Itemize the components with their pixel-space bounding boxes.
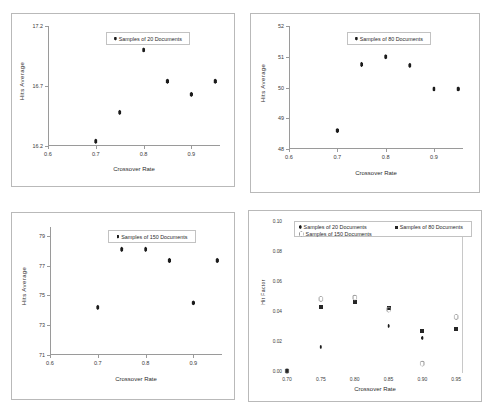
y-tick-label: 16.7 — [33, 83, 44, 89]
x-tick-label: 0.7 — [92, 151, 100, 157]
legend-item-3: Samples of 150 Documents — [299, 231, 372, 237]
open-diamond-marker-icon — [299, 231, 304, 237]
data-point — [384, 54, 387, 59]
data-point — [320, 345, 323, 349]
data-point — [318, 296, 323, 302]
x-tick-label: 0.70 — [282, 376, 292, 382]
y-tick-label: 77 — [39, 263, 45, 269]
x-tick-label: 0.6 — [46, 360, 54, 366]
plot-area-3: 79777573710.60.70.80.9 — [50, 227, 222, 355]
x-tick-label: 0.80 — [350, 376, 360, 382]
y-tick-label: 75 — [39, 292, 45, 298]
plot-area-4: 0.100.080.060.040.020.000.700.750.800.85… — [287, 221, 463, 371]
x-tick — [50, 355, 51, 358]
data-point — [142, 47, 145, 52]
x-axis-title-3: Crossover Rate — [115, 376, 157, 382]
x-tick-label: 0.6 — [44, 151, 52, 157]
diamond-marker-icon — [299, 225, 302, 229]
data-point — [420, 360, 425, 366]
y-tick — [286, 118, 289, 119]
y-tick — [286, 26, 289, 27]
x-tick — [48, 146, 49, 149]
chart-panel-1: 17.216.716.20.60.70.80.9 Samples of 20 D… — [11, 13, 235, 187]
x-tick-label: 0.7 — [333, 154, 341, 160]
y-tick-label: 0.06 — [273, 279, 282, 284]
x-tick — [191, 146, 192, 149]
x-tick-label: 0.9 — [187, 151, 195, 157]
data-point — [454, 327, 458, 331]
y-tick — [47, 325, 50, 326]
y-tick — [47, 266, 50, 267]
chart-panel-3: 79777573710.60.70.80.9 Samples of 150 Do… — [11, 212, 235, 400]
legend-label: Samples of 20 Documents — [119, 36, 182, 42]
chart-panel-1-cell: 17.216.716.20.60.70.80.9 Samples of 20 D… — [0, 0, 244, 200]
y-tick-label: 73 — [39, 322, 45, 328]
y-axis-line-1 — [48, 26, 49, 146]
data-point — [94, 138, 97, 143]
x-tick — [96, 146, 97, 149]
x-tick-label: 0.90 — [418, 376, 428, 382]
x-tick-label: 0.7 — [94, 360, 102, 366]
x-axis-line-1 — [48, 145, 220, 146]
x-tick — [386, 149, 387, 152]
data-point — [456, 86, 459, 91]
data-point — [190, 92, 193, 97]
x-axis-title-4: Crossover Rate — [354, 386, 396, 392]
legend-item-1: Samples of 150 Documents — [117, 234, 188, 240]
x-axis-title-1: Crossover Rate — [113, 166, 155, 172]
legend-3: Samples of 150 Documents — [108, 230, 196, 243]
x-axis-line-3 — [50, 354, 222, 355]
x-tick-label: 0.9 — [430, 154, 438, 160]
y-tick-label: 79 — [39, 233, 45, 239]
x-tick — [337, 149, 338, 152]
y-axis-title-1: Hits Average — [19, 61, 25, 101]
data-point — [421, 336, 424, 340]
y-tick-label: 52 — [278, 23, 284, 29]
x-tick — [98, 355, 99, 358]
y-tick — [47, 236, 50, 237]
data-point — [120, 247, 123, 252]
data-point — [96, 305, 99, 310]
y-tick-label: 51 — [278, 54, 284, 60]
y-tick — [45, 86, 48, 87]
x-tick-label: 0.9 — [189, 360, 197, 366]
legend-2: Samples of 80 Documents — [347, 32, 431, 45]
x-tick-label: 0.6 — [285, 154, 293, 160]
y-tick — [45, 26, 48, 27]
data-point — [360, 62, 363, 67]
y-tick-label: 0.10 — [273, 219, 282, 224]
y-axis-line-3 — [50, 227, 51, 355]
data-point — [408, 63, 411, 68]
y-axis-title-2: Hits Average — [260, 63, 266, 103]
square-marker-icon — [395, 226, 398, 229]
y-tick — [47, 295, 50, 296]
chart-panel-4-cell: 0.100.080.060.040.020.000.700.750.800.85… — [244, 200, 487, 417]
x-tick-label: 0.8 — [382, 154, 390, 160]
x-tick-label: 0.8 — [140, 151, 148, 157]
data-point — [144, 247, 147, 252]
figure-grid: 17.216.716.20.60.70.80.9 Samples of 20 D… — [0, 0, 487, 417]
right-boundary-line-4 — [462, 221, 463, 373]
y-tick-label: 50 — [278, 85, 284, 91]
chart-panel-2-cell: 52515049480.60.70.80.9 Samples of 80 Doc… — [244, 0, 487, 200]
data-point — [454, 314, 459, 320]
x-tick — [289, 149, 290, 152]
data-point — [166, 78, 169, 83]
chart-panel-3-cell: 79777573710.60.70.80.9 Samples of 150 Do… — [0, 200, 244, 417]
x-tick-label: 0.95 — [451, 376, 461, 382]
data-point — [319, 305, 323, 309]
x-tick — [144, 146, 145, 149]
y-tick — [286, 88, 289, 89]
data-point — [214, 78, 217, 83]
y-tick-label: 0.02 — [273, 339, 282, 344]
x-tick-label: 0.8 — [142, 360, 150, 366]
diamond-marker-icon — [114, 37, 117, 41]
y-tick — [286, 57, 289, 58]
chart-panel-4: 0.100.080.060.040.020.000.700.750.800.85… — [248, 210, 482, 402]
diamond-marker-icon — [355, 37, 358, 41]
data-point — [118, 110, 121, 115]
data-point — [432, 86, 435, 91]
y-tick-label: 0.00 — [273, 369, 282, 374]
x-tick — [193, 355, 194, 358]
legend-4: Samples of 20 Documents Samples of 150 D… — [294, 221, 472, 237]
